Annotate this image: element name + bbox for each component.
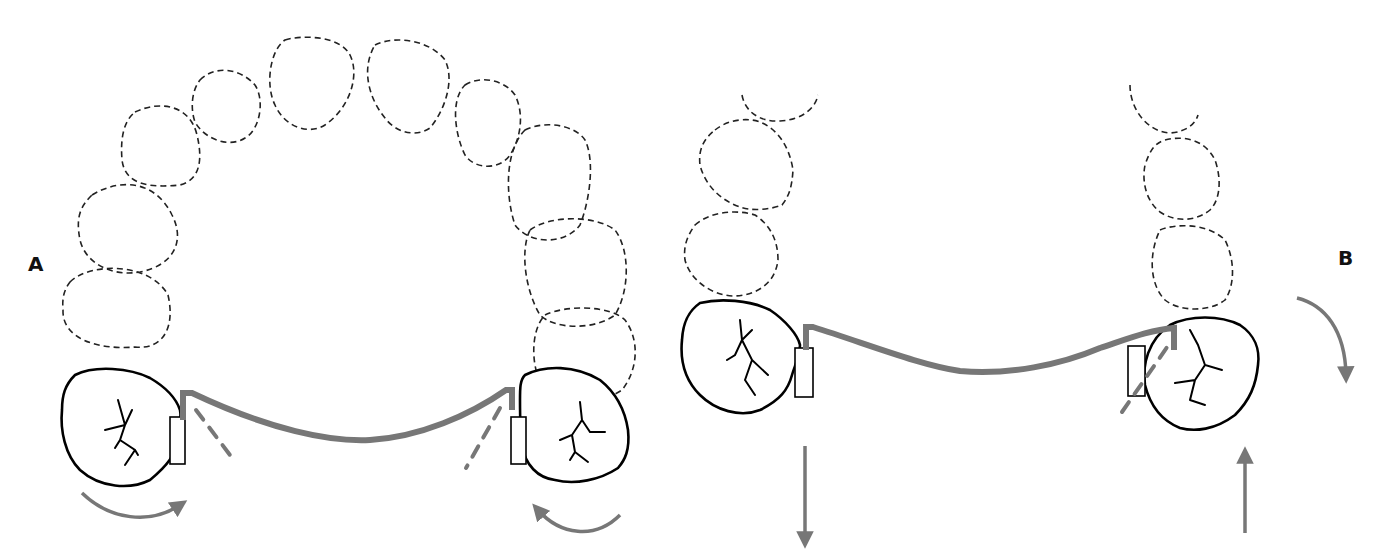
molar-left-a <box>62 369 185 486</box>
molar-outline <box>1144 318 1258 430</box>
dashed-tooth <box>685 212 778 296</box>
dashed-tooth <box>1152 226 1232 309</box>
dashed-tooth <box>1130 85 1198 133</box>
dashed-tooth <box>525 219 626 327</box>
molar-band <box>170 417 185 464</box>
dashed-tooth <box>700 120 793 210</box>
transpalatal-wire-b <box>806 327 1174 372</box>
molar-band <box>511 417 526 464</box>
molar-right-a <box>511 368 628 482</box>
rotation-arrow-right-icon <box>538 510 620 531</box>
dashed-tooth <box>270 37 354 129</box>
molar-left-b <box>682 300 813 413</box>
diagram-canvas <box>0 0 1378 553</box>
wire-activated-position-left <box>196 410 230 455</box>
dashed-teeth-b-left <box>685 95 818 296</box>
dashed-teeth-a <box>63 37 635 401</box>
molar-outline <box>62 369 181 486</box>
dashed-tooth <box>742 95 818 121</box>
molar-outline <box>682 300 800 413</box>
dashed-tooth <box>368 40 449 133</box>
dashed-tooth <box>63 268 170 347</box>
dashed-tooth <box>192 70 260 142</box>
panel-a <box>62 37 636 531</box>
dashed-teeth-b-right <box>1130 85 1233 309</box>
dashed-tooth <box>78 185 177 273</box>
panel-b <box>682 85 1346 540</box>
molar-band <box>795 348 813 397</box>
dashed-tooth <box>122 106 200 186</box>
transpalatal-wire-a <box>183 390 512 440</box>
molar-outline <box>520 368 628 482</box>
dashed-tooth <box>456 80 521 166</box>
wire-activated-position-right <box>466 408 500 468</box>
dashed-tooth <box>1144 138 1219 219</box>
rotation-arrow-down-icon <box>1297 298 1346 375</box>
dashed-tooth <box>508 125 590 240</box>
rotation-arrow-left-icon <box>82 493 180 517</box>
